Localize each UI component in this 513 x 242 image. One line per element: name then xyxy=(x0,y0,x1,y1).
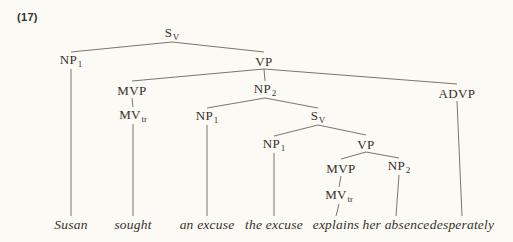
edge-mvp_emb-to-mvtr_emb xyxy=(339,176,341,187)
node-np2-main-subscript: 2 xyxy=(272,88,277,98)
node-mv-tr-embedded: MVtr xyxy=(325,188,353,204)
node-s-v-root-subscript: V xyxy=(173,32,180,42)
edge-s_root-to-vp_main xyxy=(172,42,264,52)
word-susan: Susan xyxy=(54,218,87,232)
word-desperately: desperately xyxy=(430,218,494,232)
edge-vp_main-to-np2_main xyxy=(264,69,265,81)
node-vp-embedded-label: VP xyxy=(357,137,374,152)
node-np2-main-label: NP xyxy=(254,81,271,96)
edge-vp_main-to-advp xyxy=(264,69,457,84)
node-np2-embedded: NP2 xyxy=(388,159,410,175)
word-susan-label: Susan xyxy=(54,217,87,232)
node-np1-object-subscript: 1 xyxy=(214,115,219,125)
word-explains: explains xyxy=(313,218,360,232)
node-np1-subject-label: NP xyxy=(60,52,77,67)
node-vp-embedded: VP xyxy=(357,138,374,151)
node-np1-object: NP1 xyxy=(196,109,218,125)
word-the-excuse: the excuse xyxy=(245,218,303,232)
word-her-absence-label: her absence xyxy=(362,217,429,232)
word-explains-label: explains xyxy=(313,217,360,232)
node-np1-embedded: NP1 xyxy=(263,137,285,153)
node-mvp-embedded: MVP xyxy=(326,162,355,175)
node-s-v-root-label: S xyxy=(165,25,173,40)
edge-s_emb-to-np1_emb xyxy=(274,125,318,136)
node-mv-tr-main-label: MV xyxy=(119,107,141,122)
node-np1-object-label: NP xyxy=(196,108,213,123)
node-advp-label: ADVP xyxy=(439,86,476,101)
edge-mvtr_emb-to-w_explains xyxy=(336,204,339,216)
tree-edges xyxy=(0,0,513,242)
edge-advp-to-w_desperately xyxy=(457,101,462,216)
edge-vp_main-to-mvp_main xyxy=(132,69,264,81)
node-np1-embedded-label: NP xyxy=(263,136,280,151)
node-np1-subject: NP1 xyxy=(60,53,82,69)
edge-np2_emb-to-w_her_absence xyxy=(396,175,399,216)
node-s-v-root: SV xyxy=(165,26,180,42)
word-sought: sought xyxy=(114,218,151,232)
edge-s_root-to-np1_subj xyxy=(71,42,172,52)
word-the-excuse-label: the excuse xyxy=(245,217,303,232)
node-np1-subject-subscript: 1 xyxy=(78,59,83,69)
node-np1-embedded-subscript: 1 xyxy=(281,143,286,153)
edge-np2_main-to-s_emb xyxy=(265,98,318,108)
node-np2-embedded-label: NP xyxy=(388,158,405,173)
node-mv-tr-main-subscript: tr xyxy=(141,114,147,124)
node-s-v-embedded-label: S xyxy=(311,108,319,123)
word-an-excuse-label: an excuse xyxy=(180,217,235,232)
node-np2-embedded-subscript: 2 xyxy=(406,165,411,175)
word-desperately-label: desperately xyxy=(430,217,494,232)
node-vp-main: VP xyxy=(255,55,272,68)
node-mv-tr-main: MVtr xyxy=(119,108,147,124)
word-sought-label: sought xyxy=(114,217,151,232)
node-mv-tr-embedded-subscript: tr xyxy=(347,194,353,204)
node-np2-main: NP2 xyxy=(254,82,276,98)
node-mvp-embedded-label: MVP xyxy=(326,161,355,176)
node-s-v-embedded: SV xyxy=(311,109,326,125)
node-mv-tr-embedded-label: MV xyxy=(325,187,347,202)
node-vp-main-label: VP xyxy=(255,54,272,69)
node-mvp-main-label: MVP xyxy=(117,83,146,98)
edge-mvp_main-to-mvtr_main xyxy=(132,98,133,107)
edge-vp_emb-to-mvp_emb xyxy=(341,152,366,159)
edge-np2_main-to-np1_obj xyxy=(207,98,265,108)
node-s-v-embedded-subscript: V xyxy=(319,115,326,125)
node-mvp-main: MVP xyxy=(117,84,146,97)
edge-s_emb-to-vp_emb xyxy=(318,125,366,135)
scanned-page: (17) SVNP1VPMVPMVtrNP2ADVPNP1SVNP1VPMVPM… xyxy=(0,0,513,242)
word-her-absence: her absence xyxy=(362,218,429,232)
word-an-excuse: an excuse xyxy=(180,218,235,232)
node-advp: ADVP xyxy=(439,87,476,100)
